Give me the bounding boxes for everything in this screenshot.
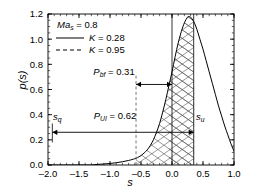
svg-text:0.6: 0.6 [30, 84, 43, 95]
svg-text:1.0: 1.0 [30, 34, 43, 45]
plot-frame [48, 14, 234, 165]
legend-entry-solid: K = 0.28 [89, 32, 125, 43]
svg-text:0.4: 0.4 [30, 109, 43, 120]
distribution-plot: –2.0–1.5–1.0–0.50.00.51.0 0.00.20.40.60.… [0, 0, 260, 194]
svg-text:0.0: 0.0 [30, 159, 43, 170]
svg-text:0.2: 0.2 [30, 134, 43, 145]
legend-entry-dashed: K = 0.95 [89, 44, 125, 55]
y-axis-title: p(s) [16, 60, 28, 100]
mach-label: Mas = 0.8 [57, 19, 98, 31]
svg-text:1.2: 1.2 [30, 8, 43, 19]
pbf-label: Pbf = 0.31 [93, 66, 134, 78]
y-tick-labels: 0.00.20.40.60.81.01.2 [30, 8, 43, 170]
svg-text:0.8: 0.8 [30, 59, 43, 70]
chart-figure: –2.0–1.5–1.0–0.50.00.51.0 0.00.20.40.60.… [0, 0, 260, 194]
x-axis-title: s [0, 176, 260, 188]
